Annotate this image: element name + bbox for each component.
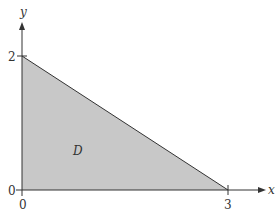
region-label: D <box>72 144 83 158</box>
x-axis-label: x <box>268 183 275 197</box>
x-tick-label-3: 3 <box>224 198 232 212</box>
y-tick-label-2: 2 <box>8 50 16 64</box>
x-axis-arrow-icon <box>258 187 266 193</box>
region-diagram: y x 2 0 0 3 D <box>0 0 275 218</box>
y-axis-label: y <box>19 5 27 19</box>
y-tick-label-0: 0 <box>8 184 16 198</box>
x-tick-label-0: 0 <box>19 198 27 212</box>
y-axis-arrow-icon <box>19 22 25 30</box>
